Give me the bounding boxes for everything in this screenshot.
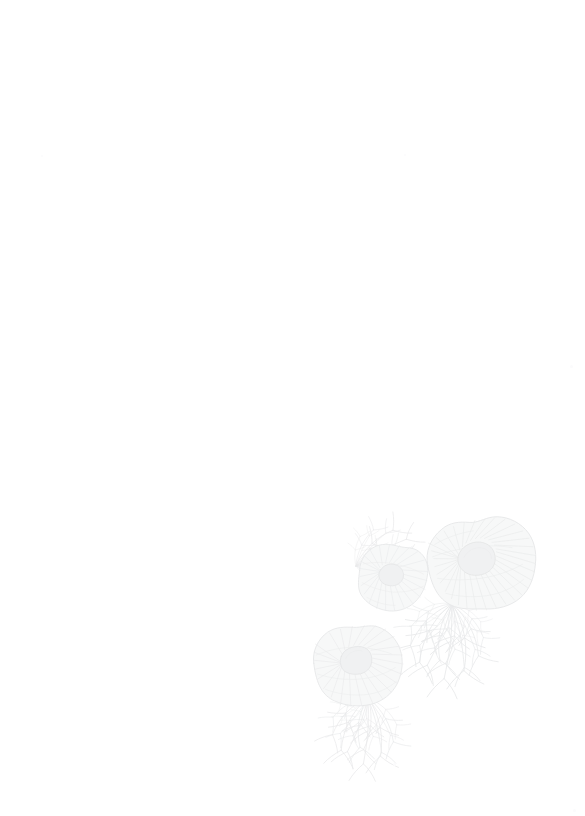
page-content-area — [0, 0, 585, 816]
document-page — [0, 0, 585, 816]
speck-right-edge — [570, 365, 573, 368]
speck-upper-right — [404, 154, 406, 156]
speck-upper-left — [41, 155, 43, 157]
speck-bottom-right — [393, 763, 396, 766]
speck-bottom-corner — [573, 809, 576, 812]
